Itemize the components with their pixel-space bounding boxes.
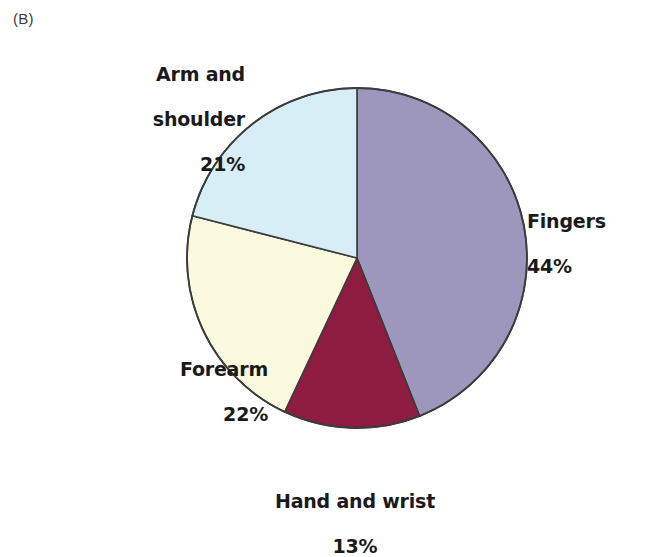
slice-label-fingers-name: Fingers xyxy=(527,210,606,232)
slice-label-hand-and-wrist-value: 13% xyxy=(255,535,455,557)
slice-label-fingers-value: 44% xyxy=(527,255,606,277)
slice-label-arm-and-shoulder-line2: shoulder xyxy=(153,108,245,130)
slice-label-arm-and-shoulder-value: 21% xyxy=(153,153,245,175)
slice-label-forearm: Forearm 22% xyxy=(180,336,268,448)
slice-label-fingers: Fingers 44% xyxy=(527,188,606,300)
slice-label-arm-and-shoulder-line1: Arm and xyxy=(153,63,245,85)
slice-label-hand-and-wrist-name: Hand and wrist xyxy=(255,490,455,512)
slice-label-arm-and-shoulder: Arm and shoulder 21% xyxy=(153,41,245,198)
slice-label-forearm-name: Forearm xyxy=(180,358,268,380)
slice-label-hand-and-wrist: Hand and wrist 13% xyxy=(255,468,455,557)
slice-label-forearm-value: 22% xyxy=(180,403,268,425)
